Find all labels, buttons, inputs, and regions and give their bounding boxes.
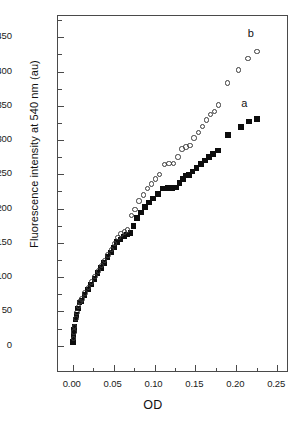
y-axis-minor-tick bbox=[58, 191, 62, 192]
x-axis-tick bbox=[236, 365, 237, 371]
data-point-series-b bbox=[175, 154, 180, 159]
y-axis-minor-tick bbox=[58, 294, 62, 295]
x-axis-minor-tick bbox=[134, 368, 135, 372]
y-axis-tick bbox=[58, 140, 64, 141]
data-point-series-b bbox=[82, 290, 87, 295]
data-point-series-b bbox=[153, 176, 158, 181]
series-label-a: a bbox=[241, 98, 247, 109]
data-point-series-a bbox=[155, 191, 161, 197]
y-axis-tick bbox=[58, 37, 64, 38]
x-axis-tick-label: 0.20 bbox=[215, 379, 255, 389]
y-axis-minor-tick bbox=[58, 157, 62, 158]
y-axis-tick-label: 200 bbox=[0, 203, 12, 213]
y-axis-tick bbox=[58, 277, 64, 278]
plot-area: ab bbox=[57, 15, 288, 372]
x-axis-tick bbox=[155, 365, 156, 371]
y-axis-minor-tick bbox=[58, 226, 62, 227]
data-point-series-b bbox=[92, 274, 97, 279]
data-point-series-a bbox=[225, 132, 231, 138]
y-axis-tick-label: 150 bbox=[0, 237, 12, 247]
y-axis-tick bbox=[58, 174, 64, 175]
data-point-series-b bbox=[157, 172, 162, 177]
y-axis-tick-label: 0 bbox=[0, 340, 12, 350]
figure-container: ab Fluorescence intensity at 540 nm (au)… bbox=[0, 0, 306, 426]
y-axis-tick bbox=[58, 106, 64, 107]
x-axis-tick-label: 0.05 bbox=[93, 379, 133, 389]
y-axis-tick-label: 250 bbox=[0, 168, 12, 178]
data-point-series-b bbox=[216, 102, 221, 107]
data-point-series-b bbox=[204, 117, 209, 122]
x-axis-tick-label: 0.10 bbox=[134, 379, 174, 389]
y-axis-tick-label: 50 bbox=[0, 305, 12, 315]
data-point-series-b bbox=[236, 67, 241, 72]
y-axis-minor-tick bbox=[58, 89, 62, 90]
data-point-series-b bbox=[212, 109, 217, 114]
x-axis-minor-tick bbox=[257, 368, 258, 372]
x-axis-tick bbox=[73, 365, 74, 371]
data-point-series-a bbox=[134, 215, 140, 221]
data-point-series-b bbox=[125, 227, 130, 232]
x-axis-minor-tick bbox=[175, 368, 176, 372]
data-point-series-b bbox=[245, 56, 250, 61]
x-axis-minor-tick bbox=[93, 368, 94, 372]
data-point-series-a bbox=[238, 124, 244, 130]
y-axis-tick bbox=[58, 346, 64, 347]
x-axis-tick-label: 0.15 bbox=[174, 379, 214, 389]
data-point-series-b bbox=[73, 316, 78, 321]
data-point-series-a bbox=[246, 119, 252, 125]
series-label-b: b bbox=[248, 28, 254, 39]
y-axis-tick-label: 450 bbox=[0, 31, 12, 41]
x-axis-title: OD bbox=[0, 398, 306, 412]
data-point-series-b bbox=[132, 207, 137, 212]
data-point-series-a bbox=[131, 223, 137, 229]
x-axis-minor-tick bbox=[216, 368, 217, 372]
data-point-series-b bbox=[71, 329, 76, 334]
data-point-series-b bbox=[145, 186, 150, 191]
data-point-series-a bbox=[142, 204, 148, 210]
y-axis-tick-label: 300 bbox=[0, 134, 12, 144]
y-axis-tick-label: 100 bbox=[0, 271, 12, 281]
x-axis-tick-label: 0.00 bbox=[52, 379, 92, 389]
y-axis-minor-tick bbox=[58, 260, 62, 261]
data-point-series-b bbox=[187, 143, 192, 148]
y-axis-minor-tick bbox=[58, 329, 62, 330]
y-axis-minor-tick bbox=[58, 20, 62, 21]
x-axis-tick bbox=[195, 365, 196, 371]
data-point-series-b bbox=[196, 130, 201, 135]
data-point-series-b bbox=[136, 198, 141, 203]
x-axis-tick bbox=[277, 365, 278, 371]
y-axis-tick bbox=[58, 72, 64, 73]
data-point-series-b bbox=[171, 161, 176, 166]
data-point-series-b bbox=[149, 181, 154, 186]
y-axis-tick bbox=[58, 311, 64, 312]
data-point-series-b bbox=[89, 279, 94, 284]
data-point-series-b bbox=[225, 80, 230, 85]
x-axis-tick-label: 0.25 bbox=[256, 379, 296, 389]
data-point-series-b bbox=[200, 124, 205, 129]
data-point-series-a bbox=[254, 116, 260, 122]
data-point-series-b bbox=[96, 268, 101, 273]
y-axis-tick bbox=[58, 209, 64, 210]
y-axis-tick-label: 350 bbox=[0, 100, 12, 110]
data-point-series-b bbox=[254, 49, 259, 54]
y-axis-minor-tick bbox=[58, 54, 62, 55]
data-point-series-a bbox=[215, 148, 221, 154]
data-point-series-b bbox=[191, 135, 196, 140]
data-point-series-b bbox=[141, 192, 146, 197]
data-point-series-b bbox=[105, 252, 110, 257]
data-point-series-b bbox=[79, 296, 84, 301]
y-axis-title: Fluorescence intensity at 540 nm (au) bbox=[28, 24, 40, 284]
y-axis-tick bbox=[58, 243, 64, 244]
y-axis-tick-label: 400 bbox=[0, 66, 12, 76]
data-point-series-a bbox=[138, 210, 144, 216]
x-axis-tick bbox=[114, 365, 115, 371]
y-axis-minor-tick bbox=[58, 123, 62, 124]
data-point-series-b bbox=[74, 310, 79, 315]
